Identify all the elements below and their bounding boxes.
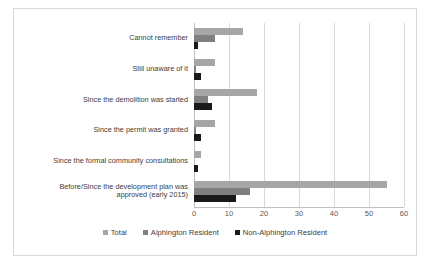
gridline-60 xyxy=(404,23,405,207)
bar-group: Since the formal community consultations xyxy=(194,151,418,172)
category-label: Since the demolition was started xyxy=(20,95,188,104)
category-label: Since the permit was granted xyxy=(20,126,188,135)
bar-nonalph xyxy=(194,103,212,110)
x-tick-label-20: 20 xyxy=(260,209,268,218)
x-tick-label-60: 60 xyxy=(400,209,408,218)
legend-label: Alphington Resident xyxy=(151,228,219,237)
legend-swatch-icon xyxy=(235,230,240,235)
bar-total xyxy=(194,28,243,35)
x-axis-line xyxy=(194,207,404,208)
bar-group: Since the permit was granted xyxy=(194,120,418,141)
category-label: Still unaware of it xyxy=(20,65,188,74)
legend-item[interactable]: Alphington Resident xyxy=(143,228,219,237)
legend-label: Total xyxy=(111,228,127,237)
legend-label: Non-Alphington Resident xyxy=(243,228,327,237)
gridline-30 xyxy=(299,23,300,207)
legend-swatch-icon xyxy=(143,230,148,235)
gridline-40 xyxy=(334,23,335,207)
category-label: Since the formal community consultations xyxy=(20,157,188,166)
gridline-50 xyxy=(369,23,370,207)
legend-item[interactable]: Total xyxy=(103,228,127,237)
bar-nonalph xyxy=(194,42,198,49)
chart-legend: TotalAlphington ResidentNon-Alphington R… xyxy=(14,228,416,237)
bar-alph xyxy=(194,35,215,42)
bar-alph xyxy=(194,127,196,134)
bar-alph xyxy=(194,96,208,103)
legend-swatch-icon xyxy=(103,230,108,235)
bar-total xyxy=(194,120,215,127)
bar-total xyxy=(194,59,215,66)
bar-nonalph xyxy=(194,165,198,172)
bar-nonalph xyxy=(194,134,201,141)
x-tick-label-0: 0 xyxy=(192,209,196,218)
legend-item[interactable]: Non-Alphington Resident xyxy=(235,228,327,237)
category-label: Before/Since the development plan was ap… xyxy=(20,183,188,200)
bar-alph xyxy=(194,188,250,195)
chart-frame: Cannot rememberStill unaware of itSince … xyxy=(13,8,417,256)
x-tick-label-30: 30 xyxy=(295,209,303,218)
bar-total xyxy=(194,89,257,96)
bar-alph xyxy=(194,66,196,73)
bar-group: Cannot remember xyxy=(194,28,418,49)
x-tick-label-50: 50 xyxy=(365,209,373,218)
bar-group: Since the demolition was started xyxy=(194,89,418,110)
gridline-10 xyxy=(229,23,230,207)
category-label: Cannot remember xyxy=(20,34,188,43)
bar-group: Still unaware of it xyxy=(194,59,418,80)
bar-nonalph xyxy=(194,195,236,202)
x-tick-label-10: 10 xyxy=(225,209,233,218)
gridline-0 xyxy=(194,23,195,207)
bar-nonalph xyxy=(194,73,201,80)
bar-total xyxy=(194,181,387,188)
bar-group: Before/Since the development plan was ap… xyxy=(194,181,418,202)
x-axis: 0102030405060 xyxy=(194,207,404,221)
x-tick-label-40: 40 xyxy=(330,209,338,218)
plot-area: Cannot rememberStill unaware of itSince … xyxy=(194,23,404,207)
gridline-20 xyxy=(264,23,265,207)
bar-total xyxy=(194,151,201,158)
